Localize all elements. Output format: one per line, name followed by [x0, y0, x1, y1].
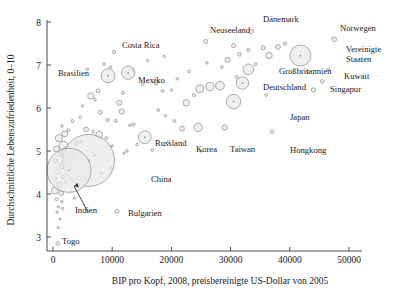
bubble-point [117, 100, 122, 105]
bubble-point [57, 206, 59, 208]
bubble-point [188, 70, 191, 73]
bubble-point [163, 55, 165, 57]
bubble-point [129, 124, 132, 127]
bubble-point [119, 109, 124, 114]
bubble-point [276, 45, 281, 50]
bubble-point [232, 44, 236, 48]
bubble-point [60, 125, 63, 128]
bubble-point [55, 135, 62, 142]
point-label: China [151, 174, 172, 184]
point-label: VereinigteStaaten [346, 44, 381, 64]
bubble-point [55, 198, 58, 201]
bubble-point [121, 91, 124, 94]
bubble-point [96, 89, 100, 93]
bubble-center-dot [300, 55, 302, 57]
y-tick-label: 6 [36, 104, 41, 114]
bubble-point [67, 129, 70, 132]
point-label: Japan [290, 112, 310, 122]
bubble-point [238, 52, 242, 56]
bubble-point [247, 48, 250, 51]
bubble-point [59, 218, 61, 220]
bubble-center-dot [144, 136, 146, 138]
bubble-point-labeled [222, 125, 227, 130]
bubble-point [106, 118, 109, 121]
bubble-point [84, 127, 89, 132]
point-label: Taiwan [230, 144, 256, 154]
bubble-point [126, 150, 129, 153]
bubble-point-labeled [194, 123, 202, 131]
bubble-point-labeled [332, 37, 337, 42]
x-axis-title: BIP pro Kopf, 2008, preisbereinigte US-D… [112, 276, 329, 286]
bubble-point [216, 81, 225, 90]
point-label: Dänemark [263, 14, 299, 24]
bubble-point-labeled [311, 88, 315, 92]
bubble-point [196, 85, 204, 93]
x-tick-label: 40000 [278, 255, 302, 265]
x-tick-label: 50000 [337, 255, 361, 265]
bubble-point [105, 137, 108, 140]
bubble-point [132, 123, 135, 126]
x-tick-label: 0 [51, 255, 56, 265]
point-label: Kuwait [344, 71, 370, 81]
bubble-point [283, 42, 286, 45]
bubble-point [266, 52, 272, 58]
point-label: Hongkong [290, 145, 327, 155]
bubble-point [103, 63, 106, 66]
x-tick-label: 30000 [219, 255, 243, 265]
bubble-point [151, 149, 154, 152]
bubble-point-labeled [243, 64, 254, 75]
bubble-point [176, 77, 179, 80]
bubble-point [94, 98, 97, 101]
point-label: Korea [196, 144, 217, 154]
point-labels: Costa RicaNeuseelandDänemarkNorwegenBras… [58, 14, 381, 246]
bubble-point [206, 82, 214, 90]
bubble-center-dot [127, 72, 129, 74]
y-tick-label: 5 [36, 147, 41, 157]
x-tick-label: 20000 [160, 255, 184, 265]
bubble-point [206, 62, 209, 65]
bubble-point-labeled [115, 209, 119, 213]
bubble-point [111, 145, 113, 147]
bubble-center-dot [68, 169, 70, 171]
bubble-point [56, 211, 58, 213]
bubble-point [79, 116, 82, 119]
point-label: Brasilien [58, 68, 90, 78]
bubble-point [180, 126, 185, 131]
bubble-point-labeled [56, 242, 60, 246]
bubble-point [98, 110, 102, 114]
bubble-point [170, 89, 173, 92]
bubble-point [254, 63, 257, 66]
y-tick-label: 4 [36, 190, 41, 200]
bubble-point [81, 105, 83, 107]
y-tick-label: 7 [36, 61, 41, 71]
bubble-point [109, 66, 112, 69]
bubble-point [220, 66, 223, 69]
point-label: Mexiko [138, 75, 165, 85]
bubble-point [192, 94, 195, 97]
bubble-point [88, 93, 94, 99]
point-label: Indien [75, 205, 98, 215]
bubble-point-labeled [270, 130, 273, 133]
point-label: Singapur [330, 84, 361, 94]
bubble-point-labeled [204, 39, 208, 43]
bubble-point-labeled [321, 80, 325, 84]
bubble-point [57, 226, 59, 228]
bubble-point [173, 120, 176, 123]
y-tick-label: 8 [36, 18, 41, 28]
y-axis-title: Durchschnittliche Lebenszufriedenheit, 0… [6, 54, 16, 225]
bubble-point [183, 100, 189, 106]
point-label: Großbritannien [279, 66, 332, 76]
bubble-point [261, 46, 265, 50]
y-tick-label: 3 [36, 233, 41, 243]
bubble-point [114, 119, 117, 122]
bubble-point [136, 143, 139, 146]
bubble-point [71, 119, 74, 122]
bubble-center-dot [242, 82, 244, 84]
bubble-point [161, 89, 164, 92]
point-label: Neuseeland [210, 25, 251, 35]
plot-canvas: 01000020000300004000050000345678 Costa R… [0, 0, 394, 299]
point-label: Russland [155, 138, 187, 148]
bubble-point [61, 200, 64, 203]
bubble-point [73, 197, 75, 199]
point-label: Costa Rica [122, 40, 160, 50]
